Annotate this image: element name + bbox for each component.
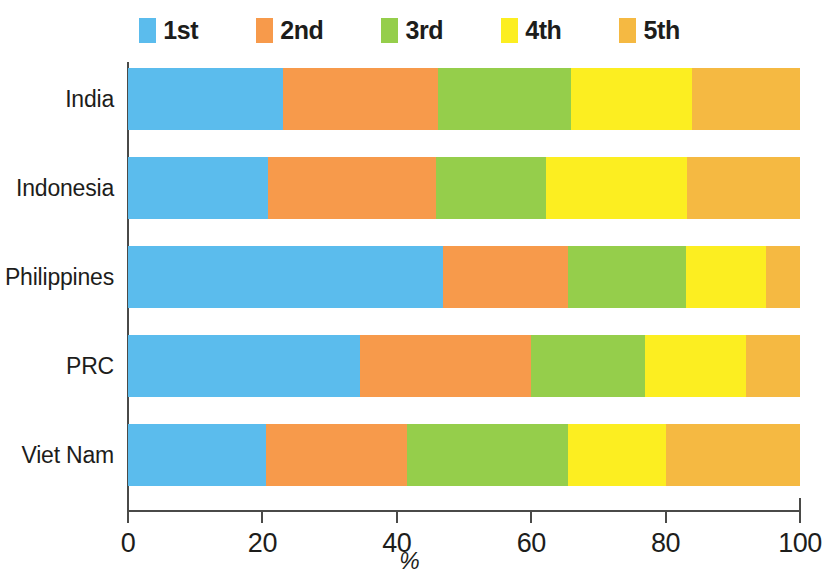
legend-item-3rd[interactable]: 3rd [381,18,443,43]
bar-segment-5th[interactable] [746,335,800,397]
legend-label-4th: 4th [525,18,561,43]
bar-segment-4th[interactable] [645,335,746,397]
x-tick-mark [396,510,398,523]
legend-item-4th[interactable]: 4th [501,18,561,43]
bar-row: Philippines [128,246,800,308]
bar-segment-4th[interactable] [571,68,692,130]
bar-segment-2nd[interactable] [268,157,436,219]
legend-swatch-2nd-icon [256,18,273,43]
bar-segment-3rd[interactable] [438,68,571,130]
y-axis-category-label: PRC [0,335,128,397]
bar-segment-3rd[interactable] [407,424,568,486]
bar-segment-1st[interactable] [128,68,283,130]
legend-label-1st: 1st [163,18,198,43]
bar-row: PRC [128,335,800,397]
legend-swatch-3rd-icon [381,18,398,43]
y-axis-category-label: Viet Nam [0,424,128,486]
bar-segment-2nd[interactable] [283,68,438,130]
legend-item-2nd[interactable]: 2nd [256,18,323,43]
legend-swatch-1st-icon [139,18,156,43]
bar-row: Viet Nam [128,424,800,486]
x-axis-line [127,510,801,512]
bar-segment-2nd[interactable] [360,335,531,397]
legend-label-2nd: 2nd [280,18,323,43]
legend-label-5th: 5th [643,18,679,43]
bar-segment-4th[interactable] [568,424,665,486]
x-tick-mark [530,510,532,523]
x-tick-mark [127,498,129,523]
bar-segment-5th[interactable] [666,424,800,486]
bar-segment-2nd[interactable] [443,246,568,308]
bar-segment-3rd[interactable] [436,157,546,219]
bar-segment-5th[interactable] [692,68,800,130]
bar-segment-4th[interactable] [546,157,687,219]
bar-segment-1st[interactable] [128,246,443,308]
x-tick-mark [261,510,263,523]
chart-legend: 1st 2nd 3rd 4th 5th [0,8,819,52]
bar-row: India [128,68,800,130]
x-axis-title: % [0,548,819,575]
legend-label-3rd: 3rd [405,18,443,43]
y-axis-category-label: Philippines [0,246,128,308]
legend-item-5th[interactable]: 5th [619,18,679,43]
y-axis-category-label: India [0,68,128,130]
bar-segment-3rd[interactable] [531,335,645,397]
bar-segment-2nd[interactable] [266,424,407,486]
bar-segment-1st[interactable] [128,335,360,397]
legend-swatch-4th-icon [501,18,518,43]
plot-area: IndiaIndonesiaPhilippinesPRCViet Nam 020… [128,62,800,510]
bar-segment-1st[interactable] [128,157,268,219]
bar-segment-5th[interactable] [687,157,800,219]
bar-row: Indonesia [128,157,800,219]
x-tick-mark [665,510,667,523]
bar-segment-3rd[interactable] [568,246,686,308]
bar-segment-1st[interactable] [128,424,266,486]
legend-item-1st[interactable]: 1st [139,18,198,43]
x-tick-mark [799,498,801,523]
y-axis-category-label: Indonesia [0,157,128,219]
bar-segment-5th[interactable] [766,246,800,308]
legend-swatch-5th-icon [619,18,636,43]
bar-segment-4th[interactable] [686,246,766,308]
